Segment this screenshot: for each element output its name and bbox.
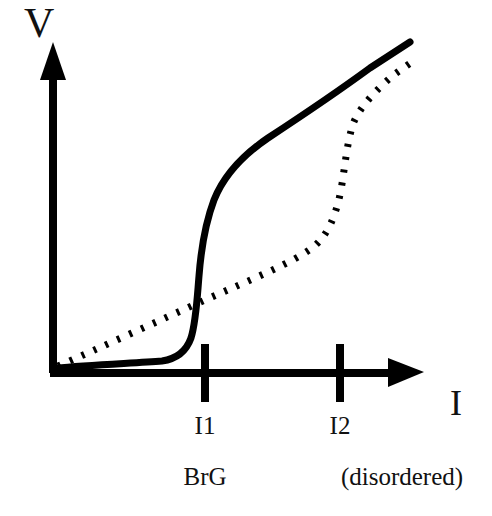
x-axis-label: I	[450, 385, 462, 421]
x-axis-arrowhead	[388, 358, 424, 387]
dotted-curve	[58, 62, 412, 366]
y-axis-arrowhead	[40, 42, 66, 80]
phase-caption-disordered: (disordered)	[322, 464, 482, 489]
tick-i2-label: I2	[297, 413, 383, 438]
solid-curve	[56, 42, 410, 368]
iv-curve-figure: V I I1 I2 BrG (disordered)	[0, 0, 492, 516]
y-axis-label: V	[24, 2, 54, 44]
tick-i1-label: I1	[162, 413, 248, 438]
plot-canvas	[0, 0, 492, 516]
phase-caption-brg: BrG	[160, 464, 250, 489]
